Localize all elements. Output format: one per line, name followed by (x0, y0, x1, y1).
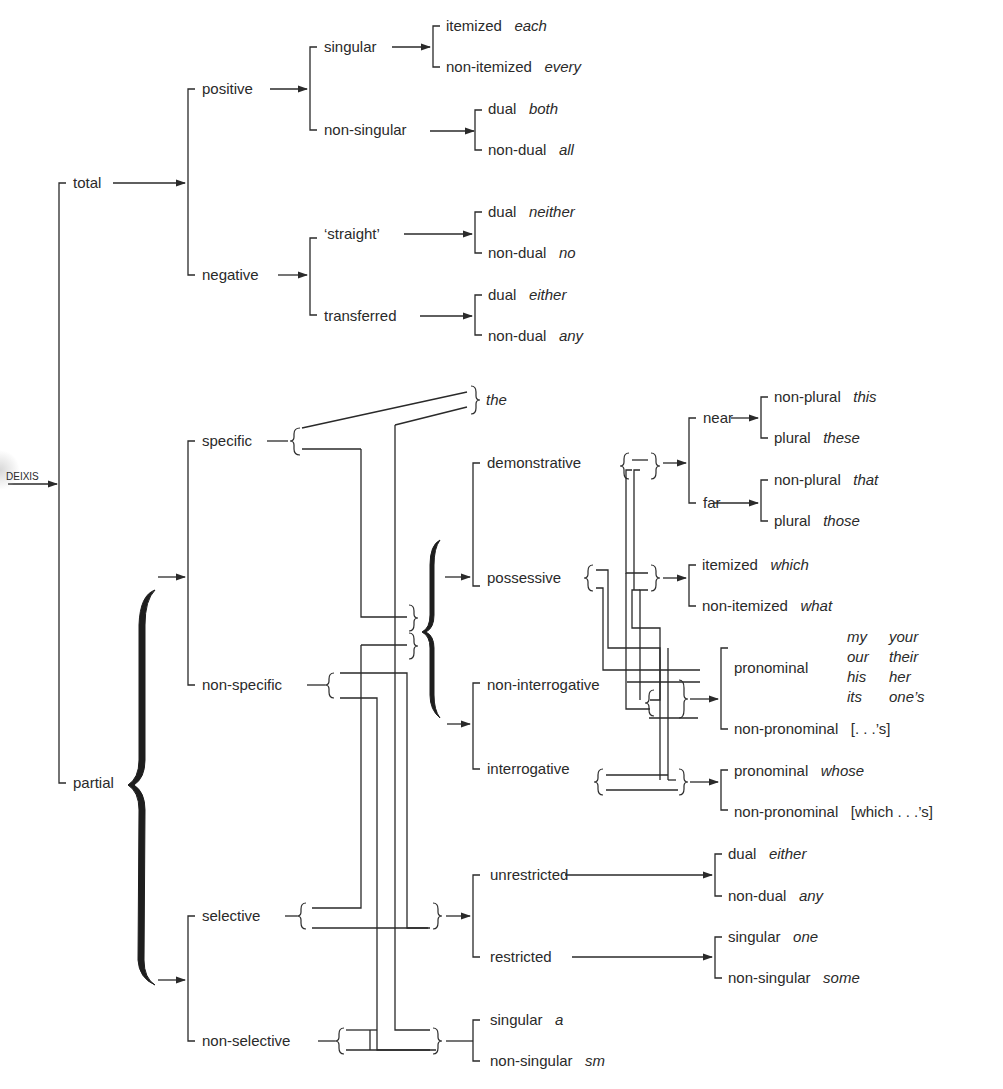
word-her: her (889, 668, 949, 686)
label-far: far (703, 494, 721, 512)
word-my: my (847, 628, 889, 646)
leaf-dual-either-2: dual either (728, 845, 806, 863)
leaf-pronominal-whose: pronominal whose (734, 762, 864, 780)
leaf-non-plural-that: non-plural that (774, 471, 878, 489)
label-pronominal: pronominal (734, 659, 808, 677)
leaf-itemized-which: itemized which (702, 556, 809, 574)
leaf-non-dual-any: non-dual any (488, 327, 583, 345)
label-negative: negative (202, 266, 259, 284)
word-his: his (847, 668, 889, 686)
label-restricted: restricted (490, 948, 552, 966)
root-label-deixis: DEIXIS (6, 468, 39, 486)
label-near: near (703, 409, 733, 427)
deixis-system-network: DEIXIS total partial positive negative s… (0, 0, 1003, 1089)
leaf-non-dual-all: non-dual all (488, 141, 574, 159)
word-its: its (847, 688, 889, 706)
leaf-dual-either: dual either (488, 286, 566, 304)
leaf-non-singular-sm: non-singular sm (490, 1052, 605, 1070)
leaf-itemized: itemized each (446, 17, 547, 35)
leaf-non-itemized: non-itemized every (446, 58, 581, 76)
word-ones: one’s (889, 688, 949, 706)
leaf-singular-a: singular a (490, 1011, 563, 1029)
label-unrestricted: unrestricted (490, 866, 568, 884)
label-non-selective: non-selective (202, 1032, 290, 1050)
label-transferred: transferred (324, 307, 397, 325)
label-possessive: possessive (487, 569, 561, 587)
leaf-dual-neither: dual neither (488, 203, 575, 221)
pronominal-word-grid: my your our their his her its one’s (847, 628, 949, 706)
leaf-dual-both: dual both (488, 100, 558, 118)
leaf-plural-those: plural those (774, 512, 860, 530)
leaf-singular-one: singular one (728, 928, 818, 946)
word-their: their (889, 648, 949, 666)
label-total: total (73, 174, 101, 192)
label-interrogative: interrogative (487, 760, 570, 778)
label-non-interrogative: non-interrogative (487, 676, 600, 694)
word-your: your (889, 628, 949, 646)
label-partial: partial (73, 774, 114, 792)
leaf-non-itemized-what: non-itemized what (702, 597, 832, 615)
label-straight: ‘straight’ (324, 225, 380, 243)
leaf-non-pronominal-which: non-pronominal [which . . .’s] (734, 803, 933, 821)
leaf-non-plural-this: non-plural this (774, 388, 877, 406)
word-the: the (486, 391, 507, 409)
label-selective: selective (202, 907, 260, 925)
leaf-non-dual-no: non-dual no (488, 244, 576, 262)
label-specific: specific (202, 432, 252, 450)
label-singular: singular (324, 38, 377, 56)
word-our: our (847, 648, 889, 666)
label-demonstrative: demonstrative (487, 454, 581, 472)
leaf-non-pronominal: non-pronominal [. . .’s] (734, 720, 890, 738)
label-non-singular: non-singular (324, 121, 407, 139)
leaf-non-dual-any-2: non-dual any (728, 887, 823, 905)
label-positive: positive (202, 80, 253, 98)
leaf-non-singular-some: non-singular some (728, 969, 860, 987)
label-non-specific: non-specific (202, 676, 282, 694)
network-lines (0, 0, 1003, 1089)
leaf-plural-these: plural these (774, 429, 860, 447)
